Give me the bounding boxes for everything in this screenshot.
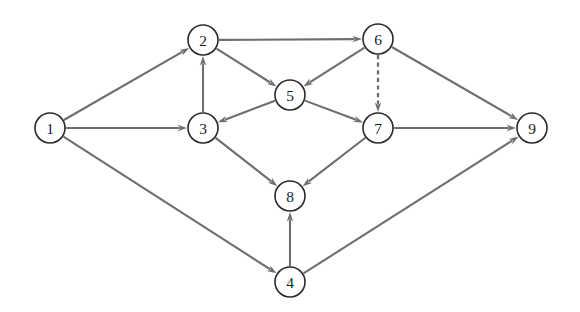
graph-node-8[interactable]: 8 [275, 181, 305, 211]
graph-node-label-9: 9 [528, 120, 536, 137]
graph-node-3[interactable]: 3 [188, 113, 218, 143]
graph-arrowhead-2-to-5 [267, 79, 277, 87]
graph-node-1[interactable]: 1 [35, 113, 65, 143]
edges-layer [63, 36, 518, 273]
graph-node-4[interactable]: 4 [275, 267, 305, 297]
graph-edge-6-to-5 [310, 48, 365, 83]
graph-node-6[interactable]: 6 [363, 24, 393, 54]
graph-edge-2-to-5 [217, 49, 271, 83]
graph-arrowhead-4-to-9 [509, 137, 519, 145]
graph-node-label-3: 3 [199, 120, 207, 137]
graph-edge-6-to-9 [392, 47, 512, 116]
graph-edge-3-to-8 [216, 138, 272, 182]
graph-node-label-2: 2 [199, 32, 207, 49]
graph-node-2[interactable]: 2 [188, 25, 218, 55]
graph-node-label-6: 6 [374, 31, 382, 48]
graph-edge-7-to-8 [309, 138, 366, 182]
graph-edge-5-to-7 [305, 101, 356, 120]
graph-node-label-7: 7 [374, 120, 382, 137]
graph-canvas: 123456789 [0, 0, 580, 312]
graph-node-label-5: 5 [286, 87, 294, 104]
graph-edge-2-to-6 [219, 39, 355, 40]
graph-edge-1-to-2 [64, 52, 183, 120]
graph-node-label-4: 4 [286, 274, 294, 291]
graph-node-9[interactable]: 9 [517, 113, 547, 143]
graph-arrowhead-6-to-5 [304, 79, 314, 87]
graph-node-5[interactable]: 5 [275, 80, 305, 110]
graph-arrowhead-1-to-4 [267, 266, 277, 274]
graph-node-label-8: 8 [286, 188, 294, 205]
graph-node-7[interactable]: 7 [363, 113, 393, 143]
graph-svg: 123456789 [0, 0, 580, 312]
graph-edge-5-to-3 [225, 101, 275, 120]
graph-node-label-1: 1 [46, 120, 54, 137]
